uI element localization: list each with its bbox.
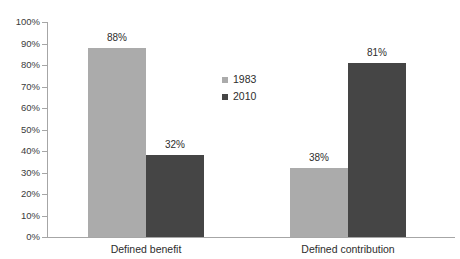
x-axis-line	[47, 237, 455, 238]
x-axis-category-label: Defined benefit	[111, 243, 182, 255]
legend-swatch-icon	[222, 94, 228, 100]
y-axis-tick-label: 40%	[2, 146, 40, 156]
bar-value-label: 38%	[309, 153, 329, 163]
legend-label: 2010	[233, 91, 256, 102]
bar	[348, 63, 406, 237]
y-axis-tick-label: 70%	[2, 82, 40, 92]
y-axis-tick-label: 50%	[2, 125, 40, 135]
legend-label: 1983	[233, 74, 256, 85]
x-axis-category-label: Defined contribution	[301, 243, 394, 255]
bar-value-label: 88%	[107, 33, 127, 43]
cropped-title-remnant	[0, 0, 460, 10]
y-axis-tick-label: 60%	[2, 103, 40, 113]
y-axis-tick-label: 20%	[2, 189, 40, 199]
y-axis-tick-mark	[42, 237, 47, 238]
y-axis-tick-label: 90%	[2, 39, 40, 49]
y-axis-tick-label: 10%	[2, 211, 40, 221]
bar-chart: 0%10%20%30%40%50%60%70%80%90%100% 88%32%…	[0, 0, 460, 259]
bar	[290, 168, 348, 237]
chart-legend: 19832010	[222, 71, 256, 105]
y-axis-tick-label: 30%	[2, 168, 40, 178]
bar	[88, 48, 146, 237]
legend-swatch-icon	[222, 77, 228, 83]
bar-value-label: 81%	[367, 48, 387, 58]
y-axis-tick-label: 100%	[2, 17, 40, 27]
y-axis-tick-label: 0%	[2, 232, 40, 242]
y-axis-tick-labels: 0%10%20%30%40%50%60%70%80%90%100%	[0, 0, 40, 259]
legend-item: 2010	[222, 88, 256, 105]
bar-value-label: 32%	[165, 140, 185, 150]
bar	[146, 155, 204, 237]
legend-item: 1983	[222, 71, 256, 88]
bars-layer	[47, 22, 455, 237]
y-axis-tick-label: 80%	[2, 60, 40, 70]
